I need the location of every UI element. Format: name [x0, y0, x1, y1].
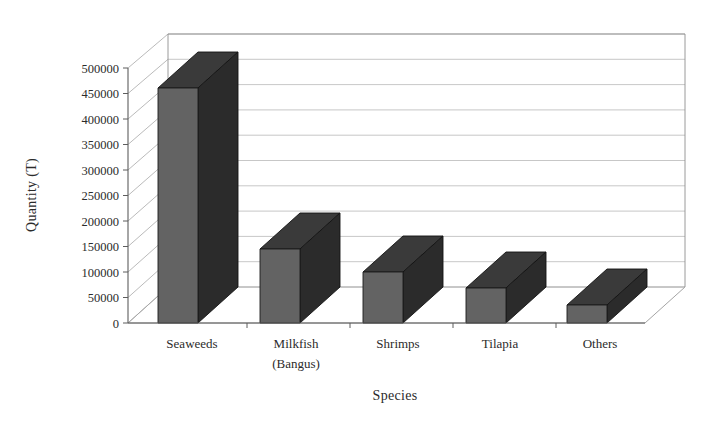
y-tick-label: 150000 [82, 240, 120, 254]
y-axis-tick-labels: 500000 450000 400000 350000 300000 25000… [82, 62, 120, 331]
y-tick-label: 50000 [88, 291, 119, 305]
y-axis [123, 68, 128, 323]
category-label-milkfish-second-line: (Bangus) [272, 356, 320, 371]
y-tick-label: 250000 [82, 189, 120, 203]
category-label-milkfish: Milkfish [274, 336, 319, 351]
y-tick-label: 450000 [82, 87, 120, 101]
y-axis-title: Quantity (T) [24, 158, 40, 232]
y-tick-label: 200000 [82, 215, 120, 229]
y-tick-label: 0 [113, 317, 119, 331]
category-label-seaweeds: Seaweeds [166, 336, 217, 351]
y-tick-label: 300000 [82, 164, 120, 178]
x-axis-title: Species [373, 388, 418, 403]
x-axis [128, 323, 645, 328]
category-label-tilapia: Tilapia [482, 336, 519, 351]
bar-chart-3d: 500000 450000 400000 350000 300000 25000… [0, 0, 721, 432]
y-tick-label: 350000 [82, 138, 120, 152]
bar-seaweeds[interactable] [158, 52, 238, 323]
y-tick-label: 100000 [82, 266, 120, 280]
y-tick-label: 500000 [82, 62, 120, 76]
chart-container: 500000 450000 400000 350000 300000 25000… [0, 0, 721, 432]
category-label-shrimps: Shrimps [376, 336, 419, 351]
category-label-others: Others [583, 336, 618, 351]
x-axis-category-labels: Seaweeds Milkfish (Bangus) Shrimps Tilap… [166, 336, 617, 371]
y-tick-label: 400000 [82, 113, 120, 127]
